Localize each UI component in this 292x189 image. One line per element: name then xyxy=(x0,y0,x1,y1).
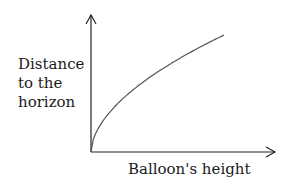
x-axis-label: Balloon's height xyxy=(128,160,251,178)
y-label-line-3: horizon xyxy=(18,93,84,112)
data-curve xyxy=(91,35,224,152)
y-label-line-1: Distance xyxy=(18,55,84,74)
y-axis xyxy=(86,15,96,152)
x-axis xyxy=(91,147,275,157)
y-axis-label: Distance to the horizon xyxy=(18,55,84,112)
y-label-line-2: to the xyxy=(18,74,84,93)
